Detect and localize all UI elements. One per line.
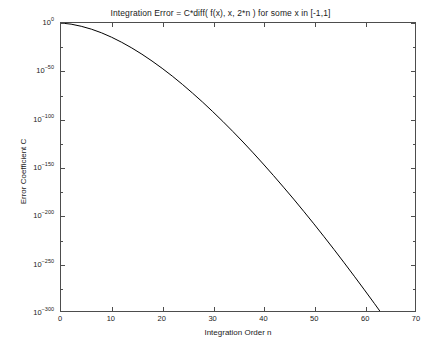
y-tick-right <box>411 71 415 72</box>
plot-area <box>60 22 416 312</box>
y-minor-tick <box>61 144 63 145</box>
y-minor-tick-right <box>413 144 415 145</box>
x-tick <box>264 307 265 311</box>
x-tick-label: 0 <box>58 314 62 323</box>
y-minor-tick-right <box>413 241 415 242</box>
x-tick-top <box>163 23 164 27</box>
x-tick-label: 40 <box>259 314 267 323</box>
x-tick-top <box>315 23 316 27</box>
figure-canvas: Integration Error = C*diff( f(x), x, 2*n… <box>0 0 441 346</box>
y-minor-tick <box>61 96 63 97</box>
y-minor-tick-right <box>413 289 415 290</box>
x-tick-top <box>366 23 367 27</box>
y-minor-tick-right <box>413 96 415 97</box>
y-axis-tick-labels: 10010−5010−10010−15010−20010−25010−300 <box>0 22 58 312</box>
y-minor-tick-right <box>413 47 415 48</box>
y-minor-tick-right <box>413 192 415 193</box>
x-axis-title: Integration Order n <box>60 328 416 337</box>
y-tick-label: 10−200 <box>33 211 54 220</box>
x-tick <box>366 307 367 311</box>
y-tick <box>61 168 65 169</box>
x-axis-tick-labels: 010203040506070 <box>60 314 416 326</box>
y-minor-tick <box>61 47 63 48</box>
y-minor-tick <box>61 289 63 290</box>
x-tick-label: 20 <box>158 314 166 323</box>
y-tick <box>61 71 65 72</box>
y-minor-tick <box>61 241 63 242</box>
y-tick-right <box>411 265 415 266</box>
y-tick-right <box>411 120 415 121</box>
y-tick-right <box>411 216 415 217</box>
y-tick <box>61 265 65 266</box>
x-tick <box>163 307 164 311</box>
y-tick-label: 10−100 <box>33 114 54 123</box>
y-tick-label: 100 <box>43 18 54 27</box>
x-tick-label: 30 <box>208 314 216 323</box>
x-tick <box>112 307 113 311</box>
x-tick-label: 60 <box>361 314 369 323</box>
x-tick-label: 50 <box>310 314 318 323</box>
x-tick-top <box>112 23 113 27</box>
y-tick <box>61 216 65 217</box>
y-minor-tick <box>61 192 63 193</box>
x-tick-top <box>264 23 265 27</box>
error-curve <box>61 23 415 311</box>
y-tick <box>61 23 65 24</box>
y-tick-right <box>411 23 415 24</box>
y-tick-label: 10−50 <box>36 66 54 75</box>
x-tick <box>315 307 316 311</box>
chart-title: Integration Error = C*diff( f(x), x, 2*n… <box>0 8 441 18</box>
y-tick-label: 10−250 <box>33 259 54 268</box>
y-tick-right <box>411 168 415 169</box>
x-tick <box>214 307 215 311</box>
y-axis-title: Error Coefficient C <box>19 92 28 252</box>
y-tick-label: 10−150 <box>33 163 54 172</box>
y-tick-label: 10−300 <box>33 308 54 317</box>
x-tick-top <box>214 23 215 27</box>
y-tick <box>61 120 65 121</box>
x-tick-label: 10 <box>107 314 115 323</box>
x-tick-label: 70 <box>412 314 420 323</box>
